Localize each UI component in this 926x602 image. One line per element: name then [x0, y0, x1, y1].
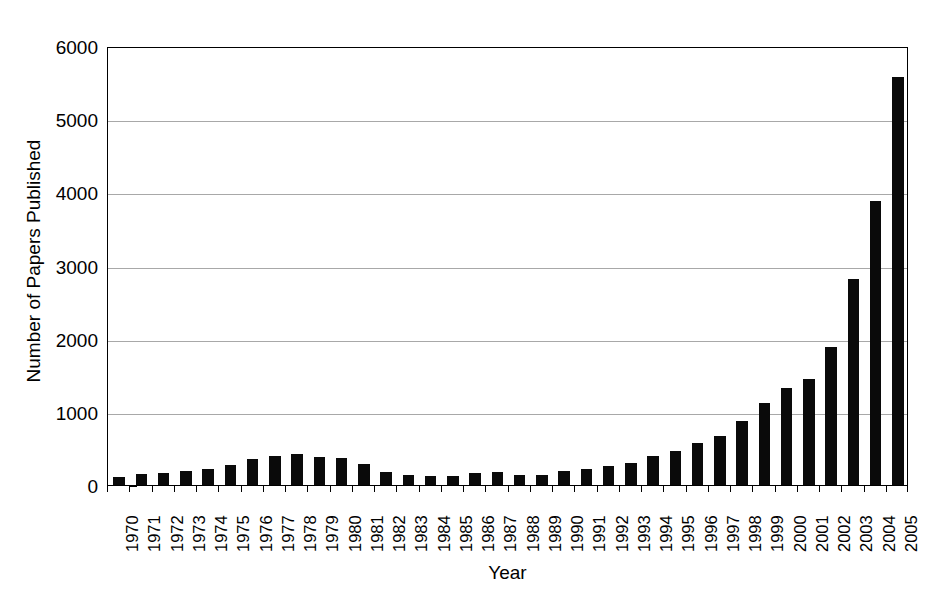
x-tick-label: 1994: [658, 488, 675, 552]
x-tick-label: 2004: [881, 488, 898, 552]
bar: [425, 476, 437, 486]
bar: [380, 472, 392, 485]
y-tick-label: 6000: [30, 38, 98, 57]
x-tick-label: 1972: [169, 488, 186, 552]
bar: [692, 443, 704, 485]
bar: [825, 347, 837, 485]
bar: [558, 471, 570, 485]
x-tick-label: 1974: [213, 488, 230, 552]
bar: [892, 77, 904, 485]
x-tick-label: 1999: [769, 488, 786, 552]
x-tick-label: 2003: [858, 488, 875, 552]
x-tick-label: 2002: [836, 488, 853, 552]
bar: [603, 466, 615, 485]
bar: [781, 388, 793, 485]
bar: [514, 475, 526, 485]
bar: [269, 456, 281, 485]
bar-chart-figure: Number of Papers Published 0100020003000…: [0, 0, 926, 602]
x-tick-label: 1970: [124, 488, 141, 552]
bar: [492, 472, 504, 485]
x-tick-label: 1986: [480, 488, 497, 552]
x-tick-label: 2000: [792, 488, 809, 552]
x-tick-label: 1981: [369, 488, 386, 552]
bar: [314, 457, 326, 485]
y-tick-label: 2000: [30, 330, 98, 349]
bar: [158, 473, 170, 485]
x-tick-label: 1997: [725, 488, 742, 552]
bar: [625, 463, 637, 485]
y-tick-label: 3000: [30, 257, 98, 276]
x-tick-label: 1989: [547, 488, 564, 552]
bar: [870, 201, 882, 485]
bar: [358, 464, 370, 485]
x-tick-label: 1988: [525, 488, 542, 552]
x-tick-label: 1990: [569, 488, 586, 552]
x-tick-label: 1991: [591, 488, 608, 552]
y-tick-label: 1000: [30, 403, 98, 422]
y-tick-label: 5000: [30, 111, 98, 130]
x-tick-label: 1982: [391, 488, 408, 552]
bar: [202, 469, 214, 485]
x-tick-label: 1987: [502, 488, 519, 552]
bar: [136, 474, 148, 485]
bar: [670, 451, 682, 485]
y-tick-label: 0: [30, 477, 98, 496]
x-tick-label: 1980: [347, 488, 364, 552]
bar: [736, 421, 748, 485]
bar: [759, 403, 771, 485]
bar: [848, 279, 860, 485]
bar: [447, 476, 459, 485]
x-tick-label: 1983: [413, 488, 430, 552]
x-tick-label: 1975: [235, 488, 252, 552]
bar: [180, 471, 192, 485]
bar: [647, 456, 659, 485]
bar: [469, 473, 481, 485]
bar: [225, 465, 237, 485]
x-tick-label: 1993: [636, 488, 653, 552]
y-tick-label: 4000: [30, 184, 98, 203]
bar: [291, 454, 303, 485]
x-tick-label: 1996: [703, 488, 720, 552]
bar: [536, 475, 548, 485]
x-tick-label: 1992: [614, 488, 631, 552]
bar: [803, 379, 815, 485]
x-tick-label: 1971: [146, 488, 163, 552]
x-tick-label: 1976: [258, 488, 275, 552]
x-tick-label: 1984: [436, 488, 453, 552]
x-tick-label: 1985: [458, 488, 475, 552]
x-axis-tick-labels: 1970197119721973197419751976197719781979…: [107, 492, 908, 558]
x-tick-label: 1998: [747, 488, 764, 552]
bar: [336, 458, 348, 485]
bars-series: [108, 48, 907, 485]
x-tick-label: 1973: [191, 488, 208, 552]
x-axis-title: Year: [107, 562, 908, 584]
x-tick-label: 1978: [302, 488, 319, 552]
x-tick-label: 2005: [903, 488, 920, 552]
bar: [113, 477, 125, 485]
plot-area: [107, 47, 908, 486]
x-tick-label: 2001: [814, 488, 831, 552]
x-tick-label: 1977: [280, 488, 297, 552]
bar: [714, 436, 726, 485]
bar: [247, 459, 259, 485]
bar: [403, 475, 415, 485]
bar: [581, 469, 593, 485]
x-tick-label: 1995: [680, 488, 697, 552]
y-axis-tick-labels: 0100020003000400050006000: [30, 0, 98, 602]
x-tick-label: 1979: [324, 488, 341, 552]
